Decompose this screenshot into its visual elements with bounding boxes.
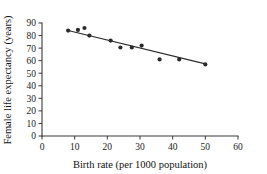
x-axis-tick-label: 10 (70, 142, 80, 152)
data-point (203, 62, 207, 66)
x-axis-tick-label: 50 (201, 142, 211, 152)
data-point-group (66, 26, 207, 67)
data-point (109, 38, 113, 42)
data-point (76, 28, 80, 32)
data-point (140, 44, 144, 48)
y-axis-tick-label: 60 (27, 56, 37, 66)
data-point (177, 57, 181, 61)
x-axis-tick-group: 0102030405060 (40, 136, 243, 152)
data-point (158, 57, 162, 61)
x-axis-tick-label: 0 (40, 142, 45, 152)
data-point (82, 26, 86, 30)
y-axis-tick-label: 20 (27, 106, 37, 116)
x-axis-tick-label: 60 (233, 142, 243, 152)
chart-canvas: 0102030405060708090 0102030405060 Birth … (0, 0, 267, 174)
data-point (130, 45, 134, 49)
y-axis-tick-group: 0102030405060708090 (27, 18, 43, 141)
data-point (87, 33, 91, 37)
y-axis-tick-label: 30 (27, 94, 37, 104)
y-axis-title: Female life expectancy (years) (2, 15, 14, 145)
x-axis-title: Birth rate (per 1000 population) (73, 159, 208, 171)
y-axis-tick-label: 0 (31, 131, 36, 141)
y-axis-tick-label: 40 (27, 81, 37, 91)
x-axis-tick-label: 40 (168, 142, 178, 152)
y-axis-tick-label: 90 (27, 18, 37, 28)
y-axis-tick-label: 10 (27, 119, 37, 129)
data-point (66, 28, 70, 32)
y-axis-tick-label: 80 (27, 31, 37, 41)
y-axis-tick-label: 70 (27, 44, 37, 54)
scatter-plot-figure: 0102030405060708090 0102030405060 Birth … (0, 0, 267, 174)
data-point (118, 45, 122, 49)
x-axis-tick-label: 20 (103, 142, 113, 152)
x-axis-tick-label: 30 (135, 142, 145, 152)
y-axis-tick-label: 50 (27, 69, 37, 79)
